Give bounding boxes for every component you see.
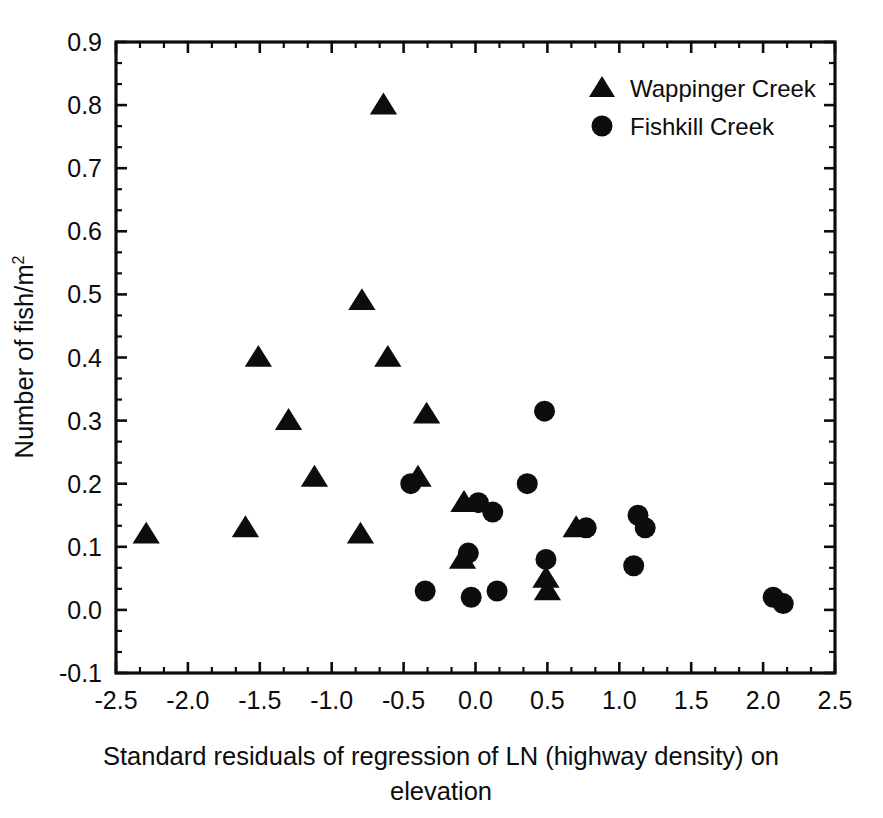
x-tick-label: -2.5 — [94, 686, 137, 714]
x-tick-label: -1.5 — [238, 686, 281, 714]
x-tick-label: 1.0 — [602, 686, 637, 714]
y-tick-label: 0.6 — [67, 217, 102, 245]
y-tick-label: 0.0 — [67, 596, 102, 624]
data-point-circle — [400, 473, 421, 494]
data-point-circle — [635, 517, 656, 538]
x-tick-label: -2.0 — [166, 686, 209, 714]
data-point-circle — [461, 587, 482, 608]
x-tick-label: -0.5 — [382, 686, 425, 714]
x-tick-label: 2.5 — [818, 686, 853, 714]
y-tick-label: 0.3 — [67, 407, 102, 435]
x-tick-label: 0.5 — [530, 686, 565, 714]
data-point-circle — [534, 401, 555, 422]
data-point-circle — [517, 473, 538, 494]
y-axis-title-text: Number of fish/m2 — [10, 255, 38, 458]
data-point-circle — [576, 517, 597, 538]
y-tick-label: 0.7 — [67, 154, 102, 182]
y-tick-label: -0.1 — [59, 659, 102, 687]
x-tick-label: 2.0 — [746, 686, 781, 714]
y-axis-title: Number of fish/m2 — [10, 255, 38, 458]
x-tick-label: 1.5 — [674, 686, 709, 714]
y-tick-label: 0.4 — [67, 344, 102, 372]
legend-label: Wappinger Creek — [630, 75, 817, 102]
x-axis-title-line2: elevation — [390, 777, 492, 805]
data-point-circle — [415, 580, 436, 601]
chart-canvas: -2.5-2.0-1.5-1.0-0.50.00.51.01.52.02.5 -… — [0, 0, 883, 818]
data-point-circle — [482, 502, 503, 523]
y-tick-label: 0.2 — [67, 470, 102, 498]
y-axis-title-superscript: 2 — [10, 255, 27, 264]
legend-label: Fishkill Creek — [630, 113, 775, 140]
x-axis-title-line1: Standard residuals of regression of LN (… — [103, 742, 779, 770]
y-tick-label: 0.1 — [67, 533, 102, 561]
y-tick-label: 0.5 — [67, 280, 102, 308]
legend-marker-circle — [592, 116, 613, 137]
y-tick-label: 0.9 — [67, 28, 102, 56]
y-tick-label: 0.8 — [67, 91, 102, 119]
y-axis-title-main: Number of fish/m — [10, 264, 38, 458]
scatter-plot-figure: -2.5-2.0-1.5-1.0-0.50.00.51.01.52.02.5 -… — [0, 0, 883, 818]
data-point-circle — [773, 593, 794, 614]
data-point-circle — [458, 543, 479, 564]
x-tick-label: -1.0 — [310, 686, 353, 714]
x-tick-label: 0.0 — [458, 686, 493, 714]
data-point-circle — [487, 580, 508, 601]
data-point-circle — [535, 549, 556, 570]
data-point-circle — [623, 555, 644, 576]
